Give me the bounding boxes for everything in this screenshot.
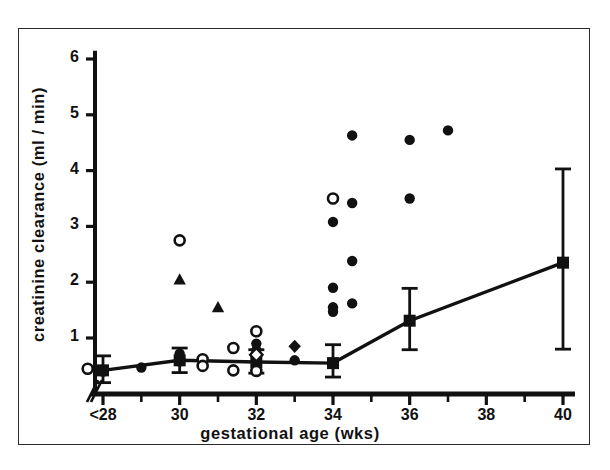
- data-point-filled-diamond: [288, 340, 300, 353]
- data-point-filled-circle: [328, 307, 338, 317]
- mean-marker-filled-square: [557, 257, 569, 269]
- data-point-filled-circle: [347, 198, 357, 208]
- data-point-filled-triangle: [173, 273, 185, 284]
- data-point-filled-circle: [404, 135, 414, 145]
- plot-canvas: [0, 0, 610, 470]
- data-point-filled-triangle: [212, 301, 224, 312]
- figure-panel: creatinine clearance (ml / min) gestatio…: [0, 0, 610, 470]
- mean-marker-filled-square: [327, 357, 339, 369]
- data-point-open-circle: [328, 194, 338, 204]
- data-point-open-circle: [251, 326, 261, 336]
- data-point-filled-circle: [347, 256, 357, 266]
- data-point-filled-circle: [347, 298, 357, 308]
- data-point-filled-circle: [347, 130, 357, 140]
- axes-group: [86, 51, 575, 405]
- data-point-open-circle: [198, 361, 208, 371]
- data-point-filled-circle: [174, 356, 184, 366]
- data-point-filled-circle: [328, 283, 338, 293]
- mean-marker-filled-square: [404, 315, 416, 327]
- data-point-open-circle: [228, 365, 238, 375]
- data-points-group: [83, 125, 454, 376]
- data-point-filled-circle: [328, 217, 338, 227]
- data-point-open-circle: [228, 343, 238, 353]
- data-point-filled-circle: [404, 193, 414, 203]
- data-point-filled-circle: [443, 125, 453, 135]
- data-point-filled-circle: [289, 355, 299, 365]
- data-point-filled-circle: [98, 366, 108, 376]
- data-point-open-circle: [251, 366, 261, 376]
- data-point-open-circle: [175, 235, 185, 245]
- data-point-filled-circle: [136, 362, 146, 372]
- data-point-open-circle: [83, 364, 93, 374]
